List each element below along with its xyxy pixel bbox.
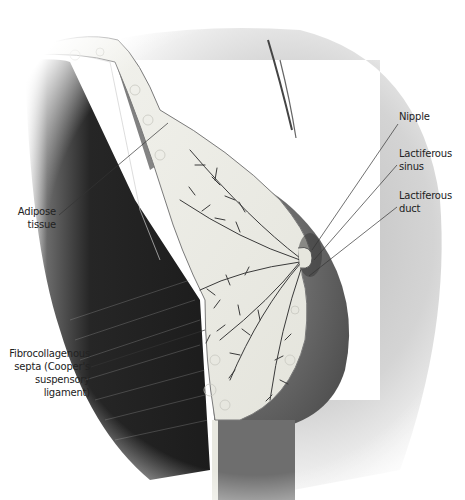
label-lactiferous-duct: Lactiferous duct xyxy=(399,189,452,215)
label-nipple: Nipple xyxy=(399,110,430,123)
breast-anatomy-illustration xyxy=(0,0,465,500)
label-adipose-tissue: Adipose tissue xyxy=(18,205,56,231)
vignette xyxy=(0,0,465,500)
label-fibrocollagenous-septa: Fibrocollagenous septa (Cooper's suspens… xyxy=(0,347,90,399)
label-lactiferous-sinus: Lactiferous sinus xyxy=(399,147,452,173)
